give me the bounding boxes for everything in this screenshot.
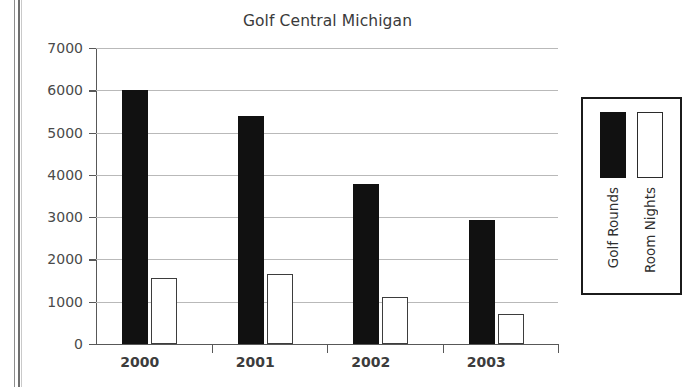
bar-chart: Golf Central Michigan 010002000300040005… xyxy=(0,0,697,387)
y-axis-tick xyxy=(89,302,96,303)
y-axis-tick xyxy=(89,48,96,49)
y-axis-tick-label: 3000 xyxy=(47,209,83,225)
bar-2001-golf-rounds xyxy=(238,116,264,344)
bar-2000-room-nights xyxy=(151,278,177,344)
x-axis-tick xyxy=(443,344,444,353)
x-axis-label-2002: 2002 xyxy=(351,354,390,370)
x-axis-tick xyxy=(558,344,559,353)
legend-items: Golf RoundsRoom Nights xyxy=(583,99,680,293)
y-axis-tick-label: 5000 xyxy=(47,124,83,140)
bar-2002-room-nights xyxy=(382,297,408,344)
x-axis-tick xyxy=(327,344,328,353)
y-axis-tick xyxy=(89,344,96,345)
gridline xyxy=(96,90,558,91)
y-axis-tick-label: 7000 xyxy=(47,40,83,56)
bar-2003-room-nights xyxy=(498,314,524,344)
y-axis-tick xyxy=(89,259,96,260)
bar-2000-golf-rounds xyxy=(122,90,148,344)
legend-label: Golf Rounds xyxy=(605,187,621,268)
legend-swatch-golf-rounds xyxy=(600,112,626,178)
gridline xyxy=(96,217,558,218)
y-axis-tick-label: 6000 xyxy=(47,82,83,98)
gridline xyxy=(96,175,558,176)
y-axis-tick xyxy=(89,175,96,176)
y-axis-tick xyxy=(89,217,96,218)
legend-item-golf-rounds: Golf Rounds xyxy=(600,112,626,268)
legend-item-room-nights: Room Nights xyxy=(637,112,663,273)
bar-2003-golf-rounds xyxy=(469,220,495,344)
y-axis-line xyxy=(96,48,97,345)
x-axis-label-2003: 2003 xyxy=(467,354,506,370)
y-axis-tick-label: 4000 xyxy=(47,167,83,183)
x-axis-label-2001: 2001 xyxy=(236,354,275,370)
x-axis-tick xyxy=(212,344,213,353)
bar-2001-room-nights xyxy=(267,274,293,344)
chart-legend: Golf RoundsRoom Nights xyxy=(581,97,682,295)
x-axis-label-2000: 2000 xyxy=(120,354,159,370)
y-axis-tick xyxy=(89,90,96,91)
y-axis-tick-label: 0 xyxy=(74,336,83,352)
gridline xyxy=(96,133,558,134)
y-axis-tick-label: 1000 xyxy=(47,293,83,309)
plot-area: 01000200030004000500060007000 2000200120… xyxy=(96,48,558,345)
bar-2002-golf-rounds xyxy=(353,184,379,344)
legend-swatch-room-nights xyxy=(637,112,663,178)
legend-label: Room Nights xyxy=(642,187,658,273)
y-axis-tick-label: 2000 xyxy=(47,251,83,267)
y-axis-tick xyxy=(89,133,96,134)
gridline xyxy=(96,48,558,49)
chart-title: Golf Central Michigan xyxy=(95,12,560,30)
